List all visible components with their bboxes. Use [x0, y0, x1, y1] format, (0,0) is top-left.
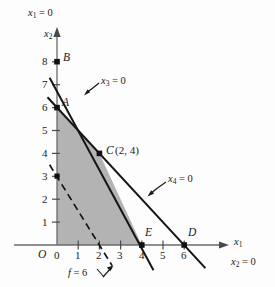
y-tick-label-2: 2: [42, 194, 48, 205]
vertex-marker-D: [181, 242, 187, 248]
y-tick-label-6: 6: [42, 102, 48, 113]
point-label-E: E: [145, 227, 152, 239]
objective-label-name: f: [68, 267, 71, 278]
vertex-marker-C: [97, 151, 103, 157]
point-label-A: A: [62, 97, 69, 109]
constraint-label-x4-eq: = 0: [179, 173, 193, 184]
point-coords-C: (2, 4): [115, 145, 139, 156]
vertex-marker-A: [54, 105, 60, 111]
constraint-label-x2-sub: 2: [236, 260, 240, 269]
objective-label-f6: f = 6: [68, 268, 87, 279]
origin-label: O: [38, 249, 46, 261]
x-tick-label-0: 0: [54, 250, 60, 261]
linear-programming-figure: x1 = 0 x2 x1 x2 = 0 x3 = 0 x4 = 0 f = 6 …: [0, 0, 275, 287]
leader-line-x4: [148, 182, 167, 197]
constraint-label-x2-eq: = 0: [242, 256, 256, 267]
x-axis-label-sub: 1: [239, 240, 243, 249]
leader-arrow-f6: [97, 266, 114, 278]
x-tick-label-3: 3: [117, 250, 123, 261]
constraint-label-x3-zero: x3 = 0: [101, 76, 126, 87]
y-tick-label-4: 4: [42, 148, 48, 159]
constraint-label-x1-sub: 1: [33, 11, 37, 20]
constraint-label-x1-eq: = 0: [39, 7, 53, 18]
point-label-C: C: [106, 145, 114, 157]
constraint-label-x3-sub: 3: [106, 79, 110, 88]
x-axis-arrowhead: [219, 241, 229, 248]
x-tick-label-5: 5: [160, 250, 166, 261]
point-label-D: D: [188, 227, 196, 239]
point-label-B: B: [63, 52, 70, 64]
y-tick-label-3: 3: [42, 171, 48, 182]
vertex-marker-f6-y: [54, 174, 59, 179]
vertex-marker-B: [54, 59, 60, 65]
x-tick-label-4: 4: [139, 250, 145, 261]
y-axis-label: x2: [44, 29, 52, 40]
y-tick-label-5: 5: [42, 125, 48, 136]
y-tick-label-8: 8: [42, 56, 48, 67]
constraint-label-x1-zero: x1 = 0: [28, 8, 53, 19]
x-axis-label: x1: [234, 237, 242, 248]
y-tick-label-7: 7: [42, 79, 48, 90]
x-tick-label-2: 2: [96, 250, 102, 261]
constraint-label-x3-eq: = 0: [112, 75, 126, 86]
x-tick-label-6: 6: [181, 250, 187, 261]
y-axis-label-sub: 2: [49, 32, 53, 41]
objective-label-eq: = 6: [74, 267, 88, 278]
x-tick-label-1: 1: [75, 250, 81, 261]
vertex-marker-E: [139, 242, 145, 248]
constraint-label-x4-zero: x4 = 0: [168, 174, 193, 185]
y-axis-arrowhead: [53, 27, 60, 37]
leader-line-x3: [84, 83, 99, 96]
constraint-label-x4-sub: 4: [173, 177, 177, 186]
constraint-label-x2-zero: x2 = 0: [231, 257, 256, 268]
y-tick-label-1: 1: [42, 217, 48, 228]
